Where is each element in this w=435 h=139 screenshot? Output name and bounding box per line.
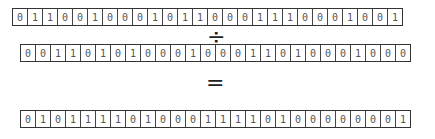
bit-cell: 1 — [88, 9, 103, 25]
bit-cell: 1 — [178, 9, 193, 25]
bit-cell: 0 — [36, 45, 51, 61]
bit-cell: 0 — [306, 111, 321, 127]
divisor-bit-row: 00110101000100011010001000 — [20, 44, 411, 62]
bit-cell: 1 — [396, 111, 410, 127]
bit-cell: 0 — [321, 45, 336, 61]
bit-cell: 1 — [351, 45, 366, 61]
bit-cell: 1 — [141, 111, 156, 127]
bit-cell: 1 — [388, 9, 402, 25]
bit-cell: 1 — [261, 45, 276, 61]
bit-cell: 0 — [261, 111, 276, 127]
bit-cell: 0 — [336, 45, 351, 61]
bit-cell: 1 — [126, 45, 141, 61]
bit-cell: 1 — [51, 45, 66, 61]
bit-cell: 0 — [58, 9, 73, 25]
bit-cell: 0 — [126, 111, 141, 127]
bit-cell: 0 — [223, 9, 238, 25]
bit-cell: 0 — [381, 111, 396, 127]
bit-cell: 0 — [373, 9, 388, 25]
bit-cell: 1 — [148, 9, 163, 25]
bit-cell: 1 — [96, 45, 111, 61]
bit-cell: 0 — [313, 9, 328, 25]
bit-cell: 0 — [366, 45, 381, 61]
bit-cell: 0 — [171, 111, 186, 127]
bit-cell: 0 — [141, 45, 156, 61]
bit-cell: 0 — [216, 45, 231, 61]
bit-cell: 1 — [343, 9, 358, 25]
result-bit-row: 01011110100011110100000001 — [20, 110, 411, 128]
bit-cell: 0 — [81, 45, 96, 61]
bit-cell: 1 — [201, 111, 216, 127]
bit-cell: 0 — [208, 9, 223, 25]
bit-cell: 0 — [133, 9, 148, 25]
bit-cell: 1 — [28, 9, 43, 25]
bit-cell: 0 — [186, 111, 201, 127]
bit-cell: 0 — [201, 45, 216, 61]
bit-cell: 0 — [328, 9, 343, 25]
bit-cell: 1 — [246, 111, 261, 127]
bit-cell: 0 — [13, 9, 28, 25]
bit-cell: 0 — [351, 111, 366, 127]
bit-cell: 0 — [276, 45, 291, 61]
bit-cell: 0 — [118, 9, 133, 25]
bit-cell: 1 — [216, 111, 231, 127]
bit-cell: 1 — [283, 9, 298, 25]
bit-cell: 0 — [21, 45, 36, 61]
bit-cell: 0 — [321, 111, 336, 127]
bit-cell: 1 — [291, 45, 306, 61]
bit-cell: 0 — [163, 9, 178, 25]
bit-cell: 0 — [51, 111, 66, 127]
bit-cell: 1 — [66, 111, 81, 127]
bit-cell: 1 — [66, 45, 81, 61]
bit-cell: 1 — [253, 9, 268, 25]
bit-cell: 0 — [298, 9, 313, 25]
bit-cell: 1 — [246, 45, 261, 61]
bit-cell: 1 — [96, 111, 111, 127]
bit-cell: 0 — [238, 9, 253, 25]
bit-cell: 1 — [81, 111, 96, 127]
bit-cell: 0 — [111, 45, 126, 61]
bit-cell: 1 — [186, 45, 201, 61]
bit-cell: 0 — [358, 9, 373, 25]
bit-cell: 0 — [306, 45, 321, 61]
bit-cell: 0 — [156, 111, 171, 127]
bit-cell: 1 — [231, 111, 246, 127]
bit-cell: 0 — [336, 111, 351, 127]
bit-cell: 1 — [36, 111, 51, 127]
bit-cell: 1 — [193, 9, 208, 25]
bit-cell: 1 — [276, 111, 291, 127]
bit-cell: 0 — [156, 45, 171, 61]
bit-cell: 0 — [231, 45, 246, 61]
bit-cell: 0 — [381, 45, 396, 61]
bit-cell: 0 — [396, 45, 410, 61]
equals-operator: = — [206, 70, 224, 95]
bit-cell: 0 — [103, 9, 118, 25]
bit-cell: 1 — [268, 9, 283, 25]
bit-cell: 0 — [21, 111, 36, 127]
bit-cell: 0 — [73, 9, 88, 25]
bit-cell: 0 — [291, 111, 306, 127]
bit-cell: 1 — [111, 111, 126, 127]
bit-cell: 1 — [43, 9, 58, 25]
bit-cell: 0 — [366, 111, 381, 127]
bit-cell: 0 — [171, 45, 186, 61]
